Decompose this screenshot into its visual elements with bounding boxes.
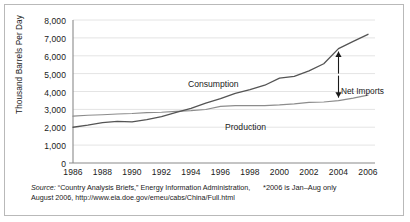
net-imports-arrow-up-head xyxy=(335,52,341,57)
source-label: Source: xyxy=(31,183,56,192)
source-line-1: “Country Analysis Briefs,” Energy Inform… xyxy=(56,183,251,192)
net-imports-label: Net Imports xyxy=(341,86,384,96)
series-label-production: Production xyxy=(225,122,266,132)
chart-figure: Thousand Barrels Per Day 8,000 7,000 6,0… xyxy=(0,0,410,222)
series-label-consumption: Consumption xyxy=(188,79,239,89)
source-note: Source: “Country Analysis Briefs,” Energ… xyxy=(31,183,281,203)
footnote: *2006 is Jan–Aug only xyxy=(263,183,337,192)
source-line-2: August 2006, http://www.eia.doe.gov/emeu… xyxy=(31,193,235,202)
